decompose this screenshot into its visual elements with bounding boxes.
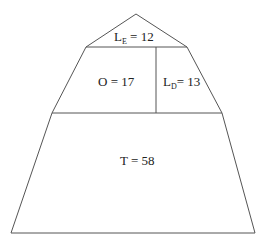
apex-label: LE = 12 [114, 29, 154, 46]
pyramid-diagram: LE = 12 O = 17 LD= 13 T = 58 [0, 0, 267, 246]
left-upper-edge [52, 47, 86, 113]
middle-right-label: LD= 13 [163, 74, 200, 91]
left-lower-edge [11, 113, 52, 233]
bottom-label: T = 58 [120, 153, 155, 168]
right-lower-edge [222, 113, 255, 233]
middle-left-label: O = 17 [98, 74, 135, 89]
